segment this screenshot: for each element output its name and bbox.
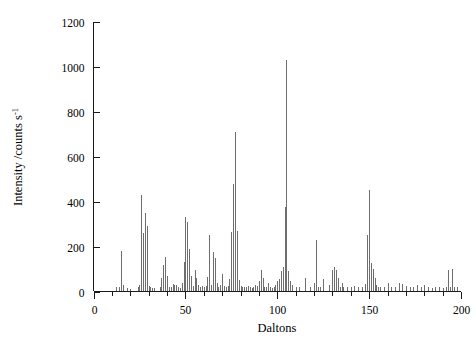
mass-spectrum-figure: 020040060080010001200 050100150200 Dalto… xyxy=(0,0,476,349)
y-axis-tick-label: 800 xyxy=(67,107,85,119)
y-axis-tick-label: 1000 xyxy=(62,62,85,74)
chart-background xyxy=(0,0,476,349)
x-axis-tick-label: 100 xyxy=(269,304,287,316)
x-axis-tick-label: 50 xyxy=(180,304,192,316)
x-axis-tick-label: 200 xyxy=(453,304,471,316)
y-axis-tick-label: 1200 xyxy=(62,17,85,29)
y-axis-tick-label: 0 xyxy=(79,287,85,299)
y-axis-tick-label: 200 xyxy=(67,242,85,254)
y-axis-tick-label: 600 xyxy=(67,152,85,164)
y-axis-title: Intensity /counts s-1 xyxy=(10,108,25,206)
x-axis-title: Daltons xyxy=(258,321,297,335)
x-axis-tick-label: 0 xyxy=(92,304,98,316)
y-axis-tick-label: 400 xyxy=(67,197,85,209)
chart-canvas: 020040060080010001200 050100150200 Dalto… xyxy=(0,0,476,349)
x-axis-tick-label: 150 xyxy=(361,304,379,316)
